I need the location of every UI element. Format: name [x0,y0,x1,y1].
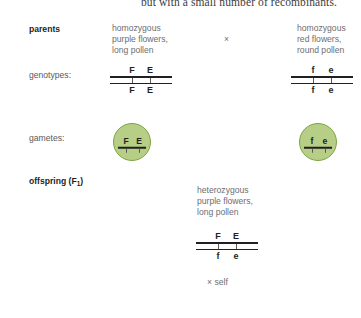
chromosome-line [110,83,172,85]
parents-cross-symbol: × [224,34,229,44]
locus-tick-icon [236,245,237,249]
offspring-line3: long pollen [197,207,253,218]
offspring-label-prefix: offspring (F [29,176,77,186]
chromosome-line [196,242,258,244]
allele-label: F [129,65,135,76]
row-label-offspring: offspring (F1) [29,176,83,186]
row-label-gametes: gametes: [29,133,64,143]
offspring-label-suffix: ) [80,176,83,186]
offspring-top-alleles: F E [196,231,258,242]
parents-left-line3: long pollen [112,45,168,56]
allele-label: E [233,231,239,242]
gamete-left-alleles: F E [118,136,146,147]
locus-tick-icon [325,148,326,152]
locus-tick-icon [132,79,133,83]
offspring-bottom-alleles: f e [196,251,258,262]
locus-tick-icon [139,148,140,152]
chromosome-line [304,147,332,149]
allele-label: e [328,65,333,76]
parents-right-line1: homozygous [297,23,346,34]
allele-label: E [147,85,153,96]
parents-left-line2: purple flowers, [112,34,168,45]
allele-label: e [323,136,328,147]
self-cross-note: × self [207,277,228,287]
allele-label: f [217,251,220,262]
allele-label: f [312,65,315,76]
parents-right-line2: red flowers, [297,34,346,45]
allele-label: E [136,136,142,147]
gamete-left-chromosome: F E [118,136,146,149]
allele-label: F [215,231,221,242]
gamete-cell-left: F E [113,123,151,161]
offspring-chromosome-pair: F E f e [196,231,258,262]
allele-label: e [233,251,238,262]
parents-left-description: homozygous purple flowers, long pollen [112,23,168,55]
locus-tick-icon [218,245,219,249]
allele-label: f [312,85,315,96]
locus-tick-icon [150,79,151,83]
locus-tick-icon [126,148,127,152]
gamete-right-chromosome: f e [304,136,332,149]
parents-left-line1: homozygous [112,23,168,34]
chromosome-line [196,249,258,251]
allele-label: F [123,136,128,147]
parents-right-line3: round pollen [297,45,346,56]
row-label-parents: parents [29,24,60,34]
parents-right-description: homozygous red flowers, round pollen [297,23,346,55]
allele-label: E [147,65,153,76]
gamete-right-alleles: f e [304,136,332,147]
row-label-genotypes: genotypes: [29,70,71,80]
offspring-line1: heterozygous [197,185,253,196]
locus-tick-icon [313,79,314,83]
genotype-right-bottom-alleles: f e [291,85,353,96]
genotype-left-top-alleles: F E [110,65,172,76]
running-text-top: but with a small number of recombinants. [141,0,337,8]
locus-tick-icon [312,148,313,152]
chromosome-line [118,147,146,149]
offspring-label-subscript: 1 [77,180,81,187]
offspring-line2: purple flowers, [197,196,253,207]
genotype-right-top-alleles: f e [291,65,353,76]
allele-label: e [328,85,333,96]
genotype-left-chromosome-pair: F E F E [110,65,172,96]
locus-tick-icon [331,79,332,83]
offspring-description: heterozygous purple flowers, long pollen [197,185,253,217]
chromosome-line [110,76,172,78]
genotype-left-bottom-alleles: F E [110,85,172,96]
gamete-cell-right: f e [299,123,337,161]
chromosome-line [291,76,353,78]
allele-label: F [129,85,135,96]
chromosome-line [291,83,353,85]
genotype-right-chromosome-pair: f e f e [291,65,353,96]
allele-label: f [311,136,314,147]
